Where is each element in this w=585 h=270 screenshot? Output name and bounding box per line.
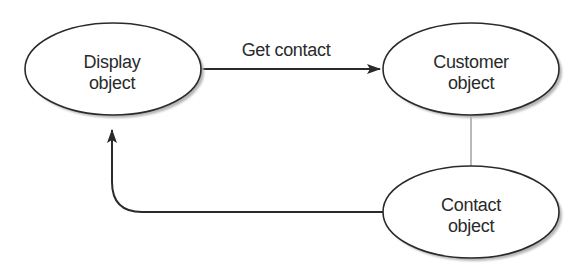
node-label-customer-line2: object [448, 73, 495, 93]
node-label-display-line2: object [89, 73, 136, 93]
node-label-display-line1: Display [84, 52, 141, 72]
edge-label-get-contact: Get contact [242, 40, 331, 60]
edge-get-contact: Get contact [202, 40, 380, 69]
node-label-contact-line2: object [448, 216, 495, 236]
node-display-object: Display object [25, 23, 204, 118]
node-customer-object: Customer object [383, 23, 562, 118]
node-contact-object: Contact object [383, 166, 562, 261]
node-label-contact-line1: Contact [441, 195, 501, 215]
node-label-customer-line1: Customer [433, 52, 509, 72]
arrow-contact-to-display [112, 130, 384, 212]
object-interaction-diagram: Get contact Display object Customer obje… [0, 0, 585, 270]
